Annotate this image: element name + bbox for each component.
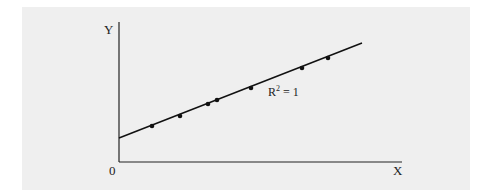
data-point	[326, 56, 331, 61]
y-axis-label: Y	[104, 22, 113, 38]
r-squared-annotation: R2 = 1	[268, 84, 299, 100]
regression-line	[119, 43, 362, 138]
data-points	[150, 56, 331, 129]
data-point	[206, 102, 211, 107]
annotation-base: R	[268, 85, 276, 99]
data-point	[300, 66, 305, 71]
annotation-rest: = 1	[280, 85, 299, 99]
data-point	[249, 86, 254, 91]
x-axis-label: X	[393, 163, 402, 179]
data-point	[215, 98, 220, 103]
data-point	[178, 114, 183, 119]
scatter-plot	[0, 0, 480, 195]
data-point	[150, 124, 155, 129]
origin-label: 0	[109, 163, 116, 179]
